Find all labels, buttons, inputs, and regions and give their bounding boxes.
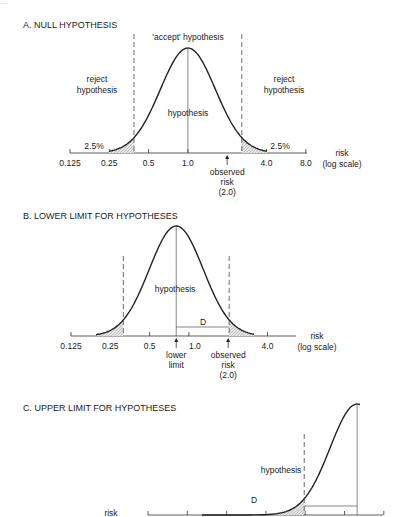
panel-a-axis-title-2: (log scale) [322,159,361,169]
tick-label: 0.5 [144,341,156,351]
panel-a-accept-label: 'accept' hypothesis [152,32,223,42]
arrow-label: (2.0) [219,370,237,380]
panel-a-reject-left-1: reject [87,74,108,84]
arrow-head [174,338,178,342]
tick-label: 8.0 [300,158,312,168]
panel-c-center-label: hypothesis [261,465,302,475]
arrow-label: limit [169,360,185,370]
panel-b-center-label: hypothesis [155,284,196,294]
panel-c-distance-label: D [251,495,257,505]
panel-a: A. NULL HYPOTHESIS 'accept' hypothesis r… [23,20,362,197]
arrow-label: observed [210,167,245,177]
hypothesis-figure: ... A. NULL HYPOTHESIS 'accept' hypothes… [0,0,409,517]
distribution-curve [96,226,254,335]
arrow-label: risk [221,177,235,187]
panel-b-distance-label: D [200,317,206,327]
panel-a-right-tail-label: 2.5% [270,141,290,151]
panel-c-title: C. UPPER LIMIT FOR HYPOTHESES [23,403,176,413]
tick-label: 0.25 [102,341,119,351]
tick-label: 0.25 [101,158,118,168]
panel-b-title: B. LOWER LIMIT FOR HYPOTHESES [23,211,178,221]
panel-a-reject-right-2: hypothesis [264,85,305,95]
panel-a-reject-left-2: hypothesis [77,85,118,95]
tick-label: 0.5 [143,158,155,168]
panel-a-title: A. NULL HYPOTHESIS [23,20,117,30]
arrow-label: lower [166,350,186,360]
tick-label: 0.125 [59,158,81,168]
distribution-curve [202,404,360,515]
panel-b-axis-title-2: (log scale) [297,342,336,352]
tick-label: 4.0 [262,341,274,351]
tick-label: 0.125 [60,341,82,351]
panel-b: B. LOWER LIMIT FOR HYPOTHESES hypothesis… [23,211,337,380]
tick-label: 4.0 [261,158,273,168]
panel-c-axis-title: risk [104,508,118,517]
page-number: ... [0,0,7,6]
arrow-head [225,155,229,159]
panel-a-left-tail-label: 2.5% [84,141,104,151]
panel-a-reject-right-1: reject [274,74,295,84]
arrow-label: (2.0) [218,187,236,197]
panel-c: C. UPPER LIMIT FOR HYPOTHESES hypothesis… [23,403,409,517]
arrow-head [226,338,230,342]
arrow-label: observed [211,350,246,360]
panel-b-axis-title-1: risk [310,331,324,341]
arrow-label: risk [222,360,236,370]
tick-label: 1.0 [182,158,194,168]
panel-a-axis-title-1: risk [335,148,349,158]
tick-label: 1.0 [189,341,201,351]
